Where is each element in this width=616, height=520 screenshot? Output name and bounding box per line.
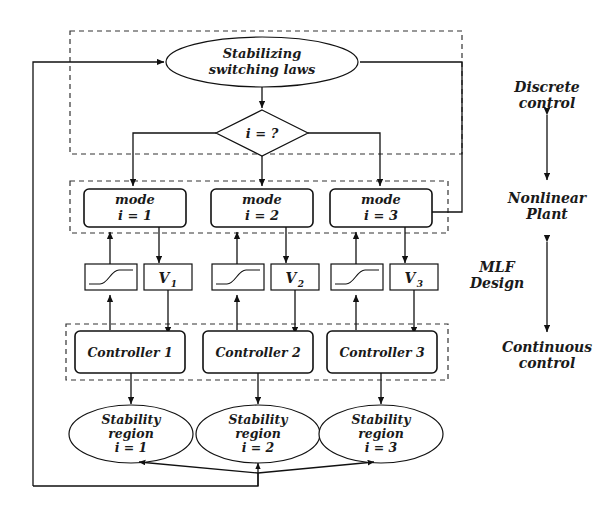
side-label-mlf-line1: MLF [478, 259, 515, 275]
side-label-continuous-line2: control [519, 355, 576, 371]
stability-1-label-line2: region [108, 426, 153, 441]
sigmoid-box-group-1[interactable] [85, 264, 137, 290]
sigmoid-box-group-2[interactable] [212, 264, 264, 290]
side-label-discrete-line2: control [519, 95, 576, 111]
lyapunov-box-group-1[interactable]: V 1 [144, 264, 192, 290]
side-label-mlf-line2: Design [469, 275, 524, 291]
switching-laws-label-line2: switching laws [209, 62, 316, 77]
lyapunov-1-subscript: 1 [171, 279, 177, 289]
stability-1-label-line3: i = 1 [115, 440, 148, 455]
stability-2-label-line2: region [235, 426, 280, 441]
sigmoid-box-2[interactable] [212, 264, 264, 290]
stability-bus-to-region1-arrow [139, 462, 258, 473]
lyapunov-box-group-2[interactable]: V 2 [271, 264, 319, 290]
decision-label: i = ? [246, 126, 279, 141]
lyapunov-box-group-3[interactable]: V 3 [390, 264, 438, 290]
mode-1-label-line2: i = 1 [118, 208, 152, 223]
lyapunov-3-subscript: 3 [417, 279, 423, 289]
controller-2-label: Controller 2 [215, 345, 300, 360]
sigmoid-box-3[interactable] [331, 264, 383, 290]
mode-2-label-line1: mode [242, 192, 282, 207]
sigmoid-box-1[interactable] [85, 264, 137, 290]
stability-2-label-line3: i = 2 [242, 440, 275, 455]
sigmoid-box-group-3[interactable] [331, 264, 383, 290]
stability-bus-to-region3-arrow [258, 462, 374, 473]
decision-branch-to-mode3 [308, 133, 380, 186]
mode-3-label-line1: mode [361, 192, 401, 207]
lyapunov-2-subscript: 2 [297, 279, 304, 289]
side-label-continuous-line1: Continuous [502, 339, 592, 355]
stability-1-label-line1: Stability [102, 412, 162, 427]
side-label-nonlinear-line2: Plant [525, 206, 568, 222]
block-diagram-figure: Stabilizing switching laws i = ? mode i … [0, 0, 616, 520]
mode-2-label-line2: i = 2 [245, 208, 279, 223]
controller-3-label: Controller 3 [339, 345, 424, 360]
stability-bus-bottom-rail [33, 473, 258, 486]
diagram-canvas: Stabilizing switching laws i = ? mode i … [0, 0, 616, 520]
decision-branch-to-mode1 [133, 133, 216, 186]
stability-3-label-line1: Stability [352, 412, 412, 427]
mode-3-label-line2: i = 3 [364, 208, 398, 223]
mode-1-label-line1: mode [115, 192, 155, 207]
stability-3-label-line3: i = 3 [365, 440, 398, 455]
side-label-discrete-line1: Discrete [513, 79, 580, 95]
controller-1-label: Controller 1 [87, 345, 172, 360]
switching-laws-label-line1: Stabilizing [223, 46, 302, 61]
side-label-nonlinear-line1: Nonlinear [507, 190, 588, 206]
stability-3-label-line2: region [358, 426, 403, 441]
stability-2-label-line1: Stability [229, 412, 289, 427]
